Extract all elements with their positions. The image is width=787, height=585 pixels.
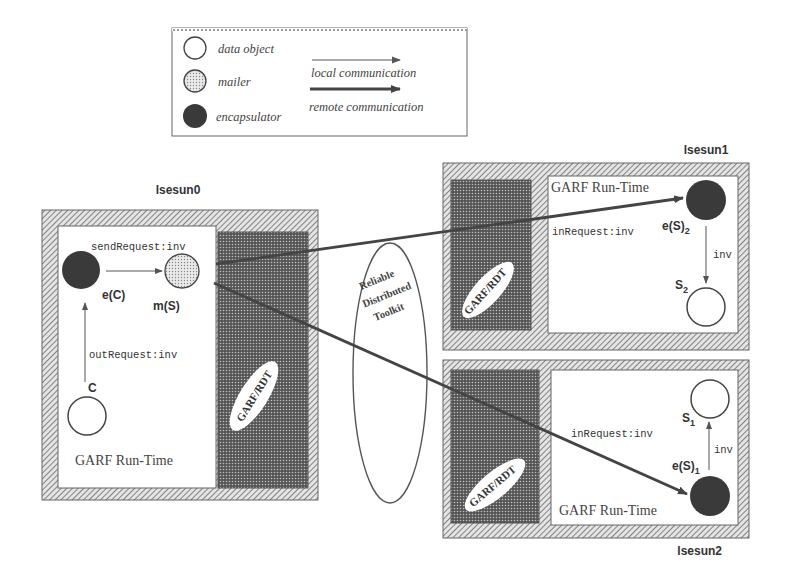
- runtime-label: GARF Run-Time: [551, 180, 649, 195]
- legend-label-encapsulator: encapsulator: [216, 110, 281, 124]
- encapsulator-server2: [686, 180, 726, 220]
- runtime-label: GARF Run-Time: [75, 453, 173, 468]
- host-lsesun2: GARF/RDT S1 inRequest:inv inv e(S)1 GARF…: [443, 360, 749, 558]
- inv-label: inv: [714, 444, 733, 456]
- architecture-diagram: data object mailer encapsulator local co…: [0, 0, 787, 585]
- encapsulator-server1: [690, 476, 730, 516]
- encapsulator-client: [62, 251, 100, 289]
- server-object-2: [687, 288, 725, 326]
- host-name-lsesun2: lsesun2: [677, 544, 722, 558]
- encapsulator-icon: [183, 104, 207, 128]
- client-label: C: [88, 381, 97, 395]
- legend-label-local: local communication: [311, 66, 416, 80]
- inv-label: inv: [713, 249, 732, 261]
- send-request-label: sendRequest:inv: [91, 241, 186, 253]
- host-name-lsesun0: lsesun0: [156, 183, 201, 197]
- in-request-label: inRequest:inv: [571, 428, 653, 440]
- host-lsesun1: lsesun1 GARF/RDT GARF Run-Time inRequest…: [443, 143, 749, 350]
- in-request-label: inRequest:inv: [552, 226, 634, 238]
- data-object-icon: [184, 37, 206, 59]
- out-request-label: outRequest:inv: [89, 349, 177, 361]
- legend-label-remote: remote communication: [309, 100, 423, 114]
- legend-label-mailer: mailer: [218, 75, 251, 89]
- legend-label-data-object: data object: [218, 42, 274, 56]
- client-object: [68, 397, 106, 435]
- legend: data object mailer encapsulator local co…: [172, 28, 467, 136]
- runtime-label: GARF Run-Time: [559, 503, 657, 518]
- mailer-server: [165, 254, 199, 288]
- host-name-lsesun1: lsesun1: [684, 143, 729, 157]
- mailer-icon: [184, 70, 206, 92]
- server-object-1: [691, 380, 729, 418]
- host-lsesun0: lsesun0 GARF/RDT sendRequest:inv e(C) m(…: [42, 183, 318, 500]
- encapsulator-label: e(C): [102, 288, 125, 302]
- mailer-label: m(S): [153, 299, 180, 313]
